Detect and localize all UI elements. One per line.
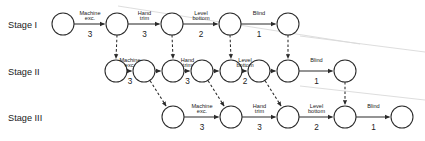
activity-name-line2: trim [183, 62, 193, 68]
activity-duration: 3 [200, 123, 205, 132]
event-node[interactable] [277, 106, 299, 128]
activity-duration: 1 [257, 30, 262, 39]
activity-name-line2: trim [255, 108, 265, 114]
event-node[interactable] [219, 13, 241, 35]
activity-duration: 3 [185, 77, 190, 86]
dependency-arrow-vertical [172, 35, 173, 59]
event-node[interactable] [391, 106, 413, 128]
dependency-arrow-vertical [230, 35, 231, 59]
stage-labels: Stage IStage IIStage III [8, 20, 42, 123]
activity-duration: 3 [257, 123, 262, 132]
stage-label-2: Stage II [8, 67, 40, 77]
event-node[interactable] [220, 106, 242, 128]
activity-duration: 3 [142, 30, 147, 39]
event-node[interactable] [105, 60, 127, 82]
activity-name-line2: trim [140, 15, 150, 21]
event-node[interactable] [277, 13, 299, 35]
dependency-arrow-vertical [116, 35, 117, 59]
activity-duration: 1 [371, 123, 376, 132]
event-node[interactable] [52, 13, 74, 35]
event-node[interactable] [133, 60, 155, 82]
activity-duration: 3 [128, 77, 133, 86]
activity-name-line1: Blind [367, 103, 379, 109]
activity-name-line2: bottom [308, 108, 325, 114]
activity-name-line2: exc. [125, 62, 136, 68]
activity-name-line2: exc. [197, 108, 208, 114]
activity-name-line1: Blind [253, 10, 265, 16]
project-network-diagram: Stage IStage IIStage III Machineexc.3Han… [0, 0, 425, 141]
event-node[interactable] [161, 13, 183, 35]
stage-label-3: Stage III [8, 113, 42, 123]
activity-duration: 2 [314, 123, 319, 132]
activity-duration: 3 [88, 30, 93, 39]
activity-name-line2: bottom [236, 62, 253, 68]
event-node[interactable] [191, 60, 213, 82]
event-node[interactable] [162, 106, 184, 128]
network-canvas: Stage IStage IIStage III Machineexc.3Han… [0, 0, 425, 141]
activity-duration: 1 [314, 77, 319, 86]
activity-name-line2: bottom [192, 15, 209, 21]
dependency-arrow-diagonal [265, 81, 281, 106]
activity-name-line1: Blind [310, 57, 322, 63]
event-node[interactable] [334, 60, 356, 82]
activity-name-line2: exc. [85, 15, 96, 21]
stage-label-1: Stage I [8, 20, 37, 30]
activity-duration: 2 [199, 30, 204, 39]
dependency-arrow-diagonal [150, 81, 166, 106]
activity-duration: 2 [243, 77, 248, 86]
event-nodes [52, 13, 413, 128]
event-node[interactable] [162, 60, 184, 82]
event-node[interactable] [106, 13, 128, 35]
event-node[interactable] [277, 60, 299, 82]
event-node[interactable] [334, 106, 356, 128]
